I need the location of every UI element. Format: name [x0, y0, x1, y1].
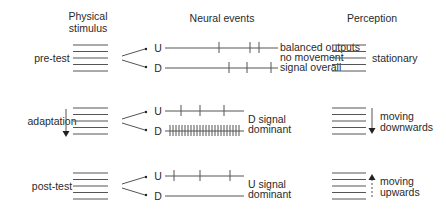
- d-channel-label: D: [154, 62, 162, 74]
- perception-description: stationary: [372, 52, 418, 64]
- fan-arrow-up-head: [145, 111, 147, 113]
- perception-description: upwards: [380, 186, 420, 198]
- u-channel-label: U: [154, 42, 162, 54]
- fan-arrow-up: [122, 112, 145, 119]
- row-label: pre-test: [34, 52, 70, 64]
- diagram-rows: pre-testUDbalanced outputsno movementsig…: [27, 41, 433, 202]
- neural-description: dominant: [248, 123, 291, 135]
- neural-description: dominant: [248, 188, 291, 200]
- motion-aftereffect-diagram: Physical stimulus Neural events Percepti…: [0, 0, 446, 215]
- u-channel-label: U: [154, 170, 162, 182]
- row-label: post-test: [32, 180, 72, 192]
- fan-arrow-down-head: [145, 66, 147, 68]
- fan-arrow-up-head: [145, 176, 147, 178]
- u-channel-label: U: [154, 105, 162, 117]
- perception-down-arrow-head: [369, 128, 376, 134]
- fan-arrow-up: [122, 177, 145, 184]
- header-perception: Perception: [347, 12, 397, 24]
- fan-arrow-up-head: [145, 48, 147, 50]
- fan-arrow-down-head: [145, 194, 147, 196]
- fan-arrow-down: [122, 60, 145, 67]
- fan-arrow-down: [122, 123, 145, 130]
- stimulus-down-arrow-head: [63, 131, 70, 137]
- fan-arrow-down: [122, 188, 145, 195]
- row-label: adaptation: [27, 115, 76, 127]
- header-stimulus-line2: stimulus: [69, 22, 108, 34]
- fan-arrow-down-head: [145, 129, 147, 131]
- header-stimulus-line1: Physical: [68, 10, 107, 22]
- fan-arrow-up: [122, 49, 145, 56]
- perception-up-arrow-head: [369, 174, 376, 180]
- perception-description: downwards: [380, 121, 433, 133]
- d-channel-label: D: [154, 190, 162, 202]
- header-neural-events: Neural events: [190, 12, 255, 24]
- d-channel-label: D: [154, 125, 162, 137]
